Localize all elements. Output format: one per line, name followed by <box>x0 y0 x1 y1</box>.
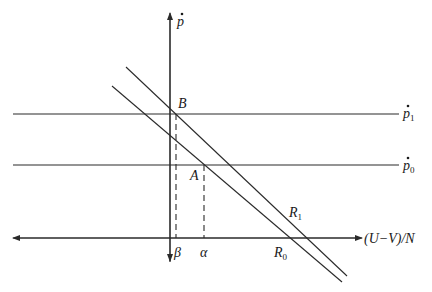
p0-label: p0 <box>402 157 415 175</box>
r0-line <box>112 86 342 282</box>
point-b-label: B <box>178 96 187 111</box>
p1-label: p1 <box>402 105 415 123</box>
dot-icon <box>181 13 184 16</box>
alpha-label: α <box>200 245 208 260</box>
dot-icon <box>407 157 410 160</box>
horizontal-axis-label: (U−V)/N <box>364 231 415 247</box>
svg-text:p: p <box>176 14 184 29</box>
r1-line <box>126 67 347 276</box>
point-a-label: A <box>189 168 199 183</box>
r1-label: R1 <box>288 205 302 222</box>
dot-icon <box>407 105 410 108</box>
vertical-axis-label: p <box>176 13 184 29</box>
diagram-canvas: p (U−V)/N p1 p0 B A β α R1 R0 <box>0 0 432 292</box>
beta-label: β <box>173 245 181 260</box>
svg-text:p0: p0 <box>402 158 415 175</box>
svg-text:p1: p1 <box>402 106 415 123</box>
r0-label: R0 <box>273 245 288 262</box>
